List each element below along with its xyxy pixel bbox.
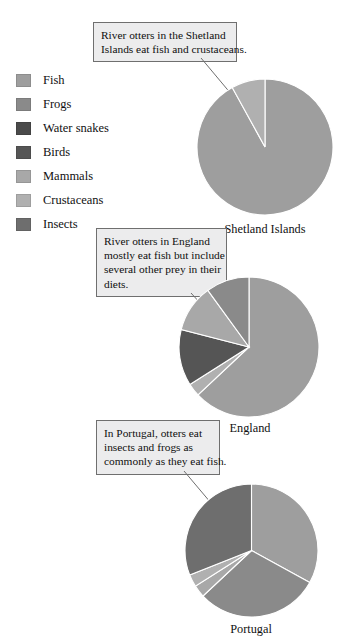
legend-swatch-birds (16, 146, 31, 159)
callout-portugal-line-3: commonly as they eat fish. (104, 454, 213, 468)
pie-caption-portugal: Portugal (196, 622, 306, 636)
legend-swatch-fish (16, 74, 31, 87)
pie-portugal-slices (184, 483, 319, 618)
legend-swatch-frogs (16, 98, 31, 111)
pie-chart-portugal (184, 483, 319, 618)
legend-label-fish: Fish (43, 74, 65, 87)
legend-item-water-snakes: Water snakes (16, 118, 109, 139)
callout-portugal-line-2: insects and frogs as (104, 440, 213, 454)
pie-chart-shetland-islands (196, 78, 334, 216)
legend-swatch-mammals (16, 170, 31, 183)
callout-england-line-1: River otters in England (104, 234, 220, 248)
callout-shetland-line-1: River otters in the Shetland (101, 28, 230, 42)
legend-swatch-crustaceans (16, 194, 31, 207)
legend-swatch-water-snakes (16, 122, 31, 135)
legend-item-crustaceans: Crustaceans (16, 190, 109, 211)
legend-item-mammals: Mammals (16, 166, 109, 187)
legend-item-frogs: Frogs (16, 94, 109, 115)
callout-shetland-line-2: Islands eat fish and crustaceans. (101, 42, 230, 56)
legend-label-mammals: Mammals (43, 170, 93, 183)
legend-swatch-insects (16, 218, 31, 231)
callout-portugal-line-1: In Portugal, otters eat (104, 426, 213, 440)
figure-canvas: Fish Frogs Water snakes Birds Mammals Cr… (0, 0, 353, 644)
legend-item-birds: Birds (16, 142, 109, 163)
legend-label-frogs: Frogs (43, 98, 71, 111)
callout-portugal: In Portugal, otters eat insects and frog… (96, 420, 220, 475)
callout-shetland: River otters in the Shetland Islands eat… (93, 22, 237, 62)
legend-label-crustaceans: Crustaceans (43, 194, 103, 207)
legend-label-insects: Insects (43, 218, 78, 231)
pie-england-slices (178, 276, 320, 418)
pie-shetland-slices (196, 78, 334, 216)
callout-england-line-2: mostly eat fish but include (104, 248, 220, 262)
legend-item-fish: Fish (16, 70, 109, 91)
callout-england-line-3: several other prey in their (104, 262, 220, 276)
legend-label-birds: Birds (43, 146, 70, 159)
legend-label-water-snakes: Water snakes (43, 122, 109, 135)
pie-chart-england (178, 276, 320, 418)
legend: Fish Frogs Water snakes Birds Mammals Cr… (16, 70, 109, 238)
